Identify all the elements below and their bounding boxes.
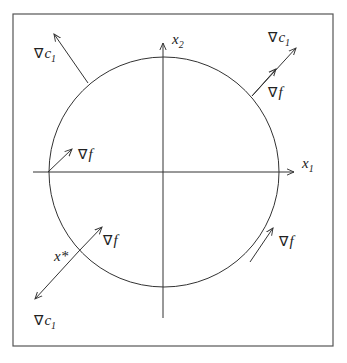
vector-label-top-right-grad-f: ∇f [267,84,284,100]
vector-label-bottom-left-grad-c1: ∇c1 [33,312,56,331]
vector-label-left-grad-f: ∇f [77,146,94,162]
vector-label-top-left-grad-c1: ∇c1 [33,45,56,64]
vector-label-bottom-right-grad-f: ∇f [278,233,295,249]
coordinate-axes [33,43,294,318]
vector-label-top-right-grad-c1: ∇c1 [267,29,290,48]
axis-label-x2: x2 [171,31,184,50]
constraint-gradient-diagram: x1x2∇c1∇f∇c1∇f∇f∇c1∇fx* [0,0,347,363]
gradient-vectors [35,34,296,299]
axis-label-x1: x1 [301,155,314,174]
optimal-point-label: x* [53,248,69,264]
diagram-frame [13,14,333,346]
vector-top-left-grad-c1 [54,34,88,83]
vector-label-bottom-left-grad-f: ∇f [102,232,119,248]
vector-bottom-left-grad-f [79,227,102,251]
vector-left-grad-f [48,149,72,172]
